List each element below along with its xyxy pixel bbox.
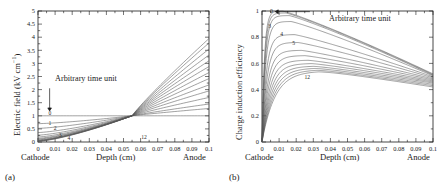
svg-text:0.03: 0.03 <box>308 145 319 152</box>
curve-12 <box>262 70 433 142</box>
curve-6 <box>38 79 209 139</box>
svg-text:0.09: 0.09 <box>186 145 197 152</box>
svg-text:0.05: 0.05 <box>342 145 353 152</box>
svg-text:0.1: 0.1 <box>205 145 213 152</box>
svg-text:2: 2 <box>32 86 35 93</box>
curve-tag-0: 0 <box>270 8 273 14</box>
svg-text:0.07: 0.07 <box>376 145 388 152</box>
svg-text:1.5: 1.5 <box>27 99 35 106</box>
curve-tag-2: 2 <box>54 125 57 131</box>
panel-a-x-axis-label: Depth (cm) <box>96 152 135 162</box>
panel-b-y-axis-label-text: Charge induction efficiency <box>235 44 244 140</box>
panel-b: 00.010.020.030.040.050.060.070.080.090.1… <box>224 0 448 190</box>
svg-text:0: 0 <box>36 145 39 152</box>
curve-13 <box>262 72 433 142</box>
panel-a: 00.010.020.030.040.050.060.070.080.090.1… <box>0 0 224 190</box>
curve-tag-12: 12 <box>305 74 311 80</box>
panel-b-anode-label: Anode <box>407 152 430 162</box>
curve-4 <box>38 91 209 135</box>
panel-b-y-axis-label: Charge induction efficiency <box>235 44 244 140</box>
svg-text:0.08: 0.08 <box>393 145 404 152</box>
curve-tag-5: 5 <box>292 40 295 46</box>
panel-b-caption: (b) <box>229 172 240 182</box>
curve-tag-3: 3 <box>268 23 271 29</box>
svg-text:0.8: 0.8 <box>251 33 259 40</box>
curve-4 <box>262 35 433 142</box>
curve-tag-1: 1 <box>49 120 52 126</box>
curve-tag-4: 4 <box>67 135 70 141</box>
panel-a-y-axis-label: Electric field (kV cm−1) <box>11 54 22 136</box>
svg-text:0.04: 0.04 <box>325 145 337 152</box>
curve-7 <box>262 56 433 142</box>
svg-text:0.1: 0.1 <box>429 145 437 152</box>
svg-text:0.01: 0.01 <box>50 145 61 152</box>
panel-a-annotation: Arbitrary time unit <box>55 74 117 83</box>
svg-text:0: 0 <box>260 145 263 152</box>
figure-container: 00.010.020.030.040.050.060.070.080.090.1… <box>0 0 448 190</box>
curve-9 <box>38 61 209 141</box>
svg-text:0.02: 0.02 <box>291 145 302 152</box>
svg-text:0.2: 0.2 <box>251 112 259 119</box>
svg-text:0.03: 0.03 <box>84 145 95 152</box>
panel-a-y-axis-label-exponent: −1 <box>11 57 17 64</box>
panel-b-x-axis-label: Depth (cm) <box>320 152 359 162</box>
svg-text:5: 5 <box>32 7 35 14</box>
svg-text:0.06: 0.06 <box>135 145 146 152</box>
svg-text:0.07: 0.07 <box>152 145 164 152</box>
svg-text:0.05: 0.05 <box>118 145 129 152</box>
svg-text:0.5: 0.5 <box>27 125 35 132</box>
svg-text:0.01: 0.01 <box>274 145 285 152</box>
curve-tag-12: 12 <box>141 134 147 140</box>
curve-0 <box>262 11 433 142</box>
curve-6 <box>262 50 433 142</box>
svg-text:0: 0 <box>256 138 259 145</box>
curve-tag-4: 4 <box>280 31 283 37</box>
svg-text:4.5: 4.5 <box>27 20 35 27</box>
svg-text:0.04: 0.04 <box>101 145 113 152</box>
svg-text:3.5: 3.5 <box>27 47 35 54</box>
curve-tag-3: 3 <box>59 132 62 138</box>
svg-text:0.4: 0.4 <box>251 86 260 93</box>
panel-a-cathode-label: Cathode <box>21 152 50 162</box>
panel-a-y-axis-label-text: Electric field (kV cm <box>13 63 22 136</box>
svg-text:2.5: 2.5 <box>27 73 35 80</box>
curve-10 <box>38 55 209 141</box>
panel-b-annotation: Arbitrary time unit <box>329 14 391 23</box>
svg-text:0: 0 <box>32 138 35 145</box>
svg-text:3: 3 <box>32 60 35 67</box>
svg-text:4: 4 <box>32 33 36 40</box>
panel-a-anode-label: Anode <box>183 152 206 162</box>
panel-a-caption: (a) <box>5 172 15 182</box>
curve-11 <box>262 68 433 142</box>
panel-a-y-axis-label-tail: ) <box>13 54 22 57</box>
svg-text:1: 1 <box>256 7 259 14</box>
svg-text:0.06: 0.06 <box>359 145 370 152</box>
annotation-arrow <box>48 88 52 111</box>
svg-text:0.08: 0.08 <box>169 145 180 152</box>
curve-3 <box>38 97 209 132</box>
curve-9 <box>262 64 433 142</box>
svg-text:0.02: 0.02 <box>67 145 78 152</box>
svg-text:0.6: 0.6 <box>251 60 259 67</box>
svg-text:0.09: 0.09 <box>410 145 421 152</box>
svg-text:1: 1 <box>32 112 35 119</box>
panel-b-cathode-label: Cathode <box>245 152 274 162</box>
curve-2 <box>38 104 209 128</box>
